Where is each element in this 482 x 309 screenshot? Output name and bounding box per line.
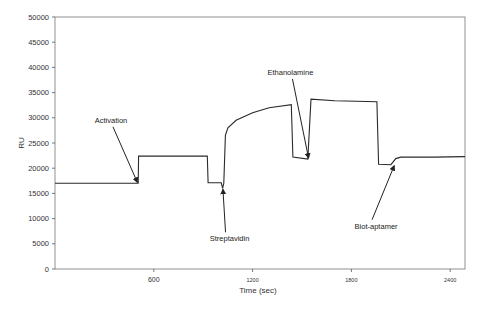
y-tick-label: 35000 — [28, 88, 49, 97]
y-tick-label: 20000 — [28, 164, 49, 173]
x-tick-label: 600 — [148, 276, 160, 283]
x-tick-label: 1200 — [246, 277, 258, 283]
y-tick-label: 15000 — [28, 189, 49, 198]
x-tick-label: 1800 — [345, 277, 357, 283]
y-axis-title: RU — [17, 137, 26, 149]
y-tick-label: 10000 — [28, 214, 49, 223]
y-tick-label: 30000 — [28, 113, 49, 122]
annotation-label: Ethanolamine — [268, 68, 314, 77]
plot-area — [55, 17, 465, 269]
x-axis-title: Time (sec) — [239, 286, 277, 295]
annotation-label: Biot-aptamer — [355, 222, 398, 231]
y-axis: 0500010000150002000025000300003500040000… — [28, 13, 55, 274]
x-axis: 600120018002400 — [148, 269, 456, 283]
y-tick-label: 0 — [45, 265, 49, 274]
y-tick-label: 40000 — [28, 63, 49, 72]
x-tick-label: 2400 — [444, 277, 456, 283]
y-tick-label: 25000 — [28, 139, 49, 148]
annotation-label: Activation — [95, 116, 128, 125]
annotation-label: Streptavidin — [210, 234, 250, 243]
sensorgram-chart: 0500010000150002000025000300003500040000… — [0, 0, 482, 309]
y-tick-label: 50000 — [28, 13, 49, 22]
y-tick-label: 45000 — [28, 38, 49, 47]
chart-svg: 0500010000150002000025000300003500040000… — [0, 0, 482, 309]
y-tick-label: 5000 — [32, 239, 49, 248]
